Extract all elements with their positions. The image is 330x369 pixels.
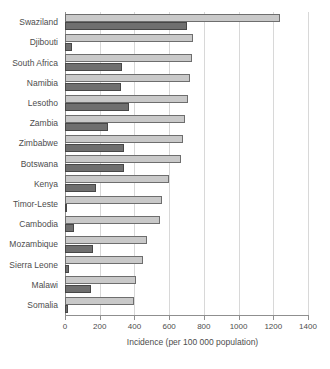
x-tick-label: 1200 (264, 322, 282, 332)
category-label: Swaziland (19, 17, 58, 27)
category-label: Mozambique (9, 239, 58, 249)
category-label: South Africa (12, 58, 58, 68)
bar-light (65, 236, 147, 244)
x-tick-label: 400 (128, 322, 141, 332)
x-tick (134, 315, 135, 320)
bar-light (65, 196, 162, 204)
category-label: Namibia (27, 78, 58, 88)
bar-group (65, 133, 308, 153)
incidence-bar-chart: SwazilandDjiboutiSouth AfricaNamibiaLeso… (0, 0, 330, 369)
bar-light (65, 216, 160, 224)
bar-light (65, 34, 193, 42)
bar-light (65, 276, 136, 284)
category-label: Timor-Leste (13, 199, 58, 209)
bar-group (65, 153, 308, 173)
bar-group (65, 93, 308, 113)
x-tick-label: 1400 (299, 322, 317, 332)
x-tick (204, 315, 205, 320)
x-axis-line (65, 315, 308, 316)
bar-light (65, 115, 185, 123)
bar-group (65, 73, 308, 93)
category-labels: SwazilandDjiboutiSouth AfricaNamibiaLeso… (0, 12, 62, 315)
x-tick (273, 315, 274, 320)
bar-dark (65, 43, 72, 51)
bar-dark (65, 103, 129, 111)
x-tick (308, 315, 309, 320)
category-label: Sierra Leone (9, 260, 58, 270)
category-label: Lesotho (28, 98, 58, 108)
category-label: Botswana (21, 159, 58, 169)
bar-dark (65, 285, 91, 293)
x-tick-label: 600 (162, 322, 175, 332)
bar-dark (65, 265, 69, 273)
x-tick-label: 1000 (230, 322, 248, 332)
category-label: Cambodia (19, 219, 58, 229)
bar-dark (65, 305, 68, 313)
bar-group (65, 295, 308, 315)
x-tick (65, 315, 66, 320)
category-label: Malawi (32, 280, 58, 290)
bar-light (65, 155, 181, 163)
gridline (308, 12, 309, 315)
bar-light (65, 74, 190, 82)
x-tick (100, 315, 101, 320)
bar-dark (65, 204, 67, 212)
bar-dark (65, 83, 121, 91)
bar-dark (65, 123, 108, 131)
category-label: Zambia (30, 118, 58, 128)
bar-dark (65, 224, 74, 232)
bar-group (65, 194, 308, 214)
x-tick-label: 800 (197, 322, 210, 332)
bar-dark (65, 245, 93, 253)
bar-group (65, 214, 308, 234)
bar-rows (65, 12, 308, 315)
category-label: Djibouti (30, 37, 58, 47)
x-tick-label: 200 (93, 322, 106, 332)
x-tick-label: 0 (63, 322, 67, 332)
bar-light (65, 95, 188, 103)
category-label: Somalia (27, 300, 58, 310)
x-axis-title: Incidence (per 100 000 population) (0, 337, 330, 347)
bar-light (65, 54, 192, 62)
x-tick (169, 315, 170, 320)
bar-group (65, 174, 308, 194)
category-label: Kenya (34, 179, 58, 189)
bar-group (65, 52, 308, 72)
bar-light (65, 175, 169, 183)
x-axis-title-text: Incidence (per 100 000 population) (127, 337, 258, 347)
plot-area (65, 12, 308, 315)
bar-group (65, 275, 308, 295)
bar-light (65, 256, 143, 264)
bar-dark (65, 63, 122, 71)
bar-group (65, 234, 308, 254)
bar-group (65, 12, 308, 32)
x-tick (239, 315, 240, 320)
category-label: Zimbabwe (19, 138, 58, 148)
bar-dark (65, 164, 124, 172)
bar-light (65, 135, 183, 143)
bar-dark (65, 144, 124, 152)
bar-dark (65, 184, 96, 192)
bar-dark (65, 22, 187, 30)
bar-light (65, 297, 134, 305)
bar-group (65, 254, 308, 274)
bar-group (65, 113, 308, 133)
bar-group (65, 32, 308, 52)
bar-light (65, 14, 280, 22)
